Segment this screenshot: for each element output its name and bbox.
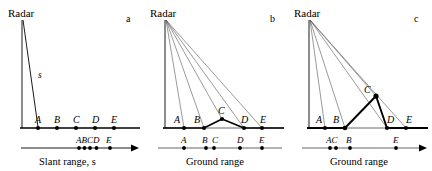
panel-letter-c: c xyxy=(414,13,419,24)
radar-ray-to-b xyxy=(310,20,345,128)
terrain-point-e xyxy=(260,126,264,130)
radar-label: Radar xyxy=(8,7,35,19)
terrain-point-a xyxy=(182,126,186,130)
panel-c-axis-label: Ground range xyxy=(330,156,388,167)
terrain-label-d: D xyxy=(240,114,249,125)
ground-point-c xyxy=(74,126,78,130)
range-point-d xyxy=(238,146,242,150)
slant-point-d xyxy=(95,146,99,150)
range-point-b xyxy=(348,146,352,150)
ground-label-b: B xyxy=(54,114,60,125)
panel-a-axis-label: Slant range, s xyxy=(39,156,96,167)
panel-c: Radar c A B C D E AC B E Ground range xyxy=(288,0,432,171)
terrain-point-d xyxy=(385,126,389,130)
radar-ray-to-a xyxy=(310,20,325,128)
terrain-point-d xyxy=(242,126,246,130)
terrain-label-a: A xyxy=(173,114,181,125)
panel-b-axis-label: Ground range xyxy=(186,156,244,167)
range-label-c: C xyxy=(212,135,219,145)
range-label-ac: AC xyxy=(325,135,338,145)
ground-label-e: E xyxy=(110,114,117,125)
ground-point-a xyxy=(36,126,40,130)
range-label-d: D xyxy=(236,135,244,145)
terrain-label-d: D xyxy=(386,114,395,125)
range-point-a xyxy=(328,146,332,150)
range-label-a: A xyxy=(180,135,187,145)
slant-ray-label: s xyxy=(38,70,42,80)
ground-point-d xyxy=(93,126,97,130)
slant-range-arrowhead xyxy=(131,144,139,151)
panel-a-diagram: Radar a s A B C D E ABCD E Slant range, … xyxy=(0,0,144,171)
panel-a: Radar a s A B C D E ABCD E Slant range, … xyxy=(0,0,144,171)
ground-label-d: D xyxy=(91,114,100,125)
ground-label-c: C xyxy=(73,114,80,125)
slant-point-e xyxy=(108,146,112,150)
slant-label-abcd: ABCD xyxy=(75,135,100,145)
range-point-c xyxy=(212,146,216,150)
terrain-point-a xyxy=(323,126,327,130)
range-point-a xyxy=(182,146,186,150)
slant-label-e: E xyxy=(105,135,112,145)
range-label-b: B xyxy=(346,135,352,145)
ground-point-b xyxy=(55,126,59,130)
terrain-label-e: E xyxy=(405,114,412,125)
terrain-label-b: B xyxy=(333,114,339,125)
radar-label: Radar xyxy=(294,7,321,19)
slant-point-c xyxy=(88,146,92,150)
terrain-point-b xyxy=(202,126,206,130)
panel-b: Radar b A B C D E A B C D E Ground range xyxy=(144,0,288,171)
terrain-point-b xyxy=(343,126,348,131)
radar-ray-to-e xyxy=(166,20,262,128)
radar-label: Radar xyxy=(150,7,177,19)
radar-geometry-figure: Radar a s A B C D E ABCD E Slant range, … xyxy=(0,0,432,171)
terrain-label-a: A xyxy=(315,114,323,125)
radar-ray-to-d xyxy=(310,20,387,128)
terrain-point-c xyxy=(373,93,378,98)
slant-ray-line xyxy=(23,20,38,127)
radar-ray-to-d xyxy=(166,20,244,128)
ground-point-e xyxy=(112,126,116,130)
radar-ray-to-e xyxy=(310,20,406,128)
terrain-label-c: C xyxy=(218,105,225,116)
terrain-label-e: E xyxy=(259,114,266,125)
range-point-c xyxy=(334,146,338,150)
panel-c-diagram: Radar c A B C D E AC B E Ground range xyxy=(288,0,432,171)
panel-b-diagram: Radar b A B C D E A B C D E Ground range xyxy=(144,0,288,171)
ground-range-arrowhead xyxy=(419,145,427,152)
radar-ray-to-b xyxy=(166,20,204,128)
ground-label-a: A xyxy=(34,114,42,125)
slant-point-b xyxy=(83,146,87,150)
terrain-point-c xyxy=(220,117,224,121)
range-point-e xyxy=(394,146,398,150)
slant-point-a xyxy=(77,146,81,150)
terrain-label-b: B xyxy=(194,114,200,125)
range-point-e xyxy=(260,146,264,150)
range-label-e: E xyxy=(392,135,399,145)
terrain-label-c: C xyxy=(364,84,371,95)
range-label-b: B xyxy=(202,135,208,145)
range-point-b xyxy=(204,146,208,150)
terrain-point-e xyxy=(404,126,408,130)
panel-letter-b: b xyxy=(270,13,275,24)
range-label-e: E xyxy=(258,135,265,145)
panel-letter-a: a xyxy=(126,13,131,24)
